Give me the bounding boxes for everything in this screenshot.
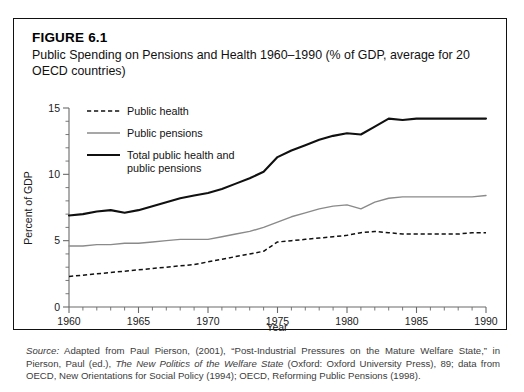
y-tick-label: 10: [48, 168, 60, 180]
chart-plot-area: 051015 Percent of GDP 196019651970197519…: [14, 19, 508, 331]
source-italic-title: The New Politics of the Welfare State: [115, 358, 283, 369]
legend-label-total-line1: Total public health and: [127, 149, 234, 161]
y-tick-label: 15: [48, 102, 60, 114]
legend-label-public-health: Public health: [127, 105, 189, 117]
series-public-pensions: [69, 196, 486, 246]
y-tick-label: 5: [54, 234, 60, 246]
x-axis-title: Year: [266, 321, 288, 331]
x-tick-label: 1970: [196, 315, 220, 327]
x-tick-label: 1965: [127, 315, 151, 327]
x-tick-label: 1980: [335, 315, 359, 327]
line-chart: 051015 Percent of GDP 196019651970197519…: [14, 19, 508, 331]
figure-card: FIGURE 6.1 Public Spending on Pensions a…: [13, 18, 507, 330]
x-tick-label: 1960: [57, 315, 81, 327]
x-tick-label: 1985: [405, 315, 429, 327]
x-axis: 1960196519701975198019851990 Year: [57, 307, 498, 331]
source-note: Source: Adapted from Paul Pierson, (2001…: [26, 345, 500, 383]
source-lead: Source:: [26, 345, 59, 356]
legend-label-total-line2: public pensions: [127, 162, 202, 174]
legend-label-public-pensions: Public pensions: [127, 127, 203, 139]
y-axis-title: Percent of GDP: [22, 171, 34, 245]
x-tick-label: 1990: [474, 315, 498, 327]
y-tick-label: 0: [54, 301, 60, 313]
series-group: [69, 119, 486, 277]
chart-legend: Public health Public pensions Total publ…: [87, 105, 234, 174]
y-axis: 051015 Percent of GDP: [22, 102, 69, 313]
series-public-health: [69, 231, 486, 276]
